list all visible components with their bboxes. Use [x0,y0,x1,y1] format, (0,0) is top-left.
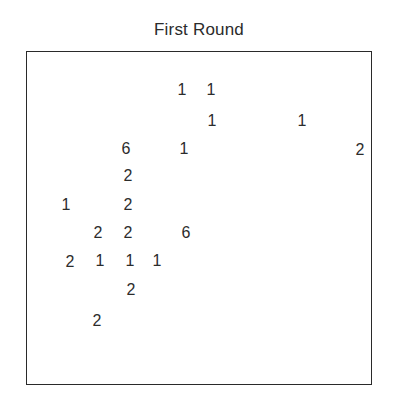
count-label: 2 [120,225,136,241]
count-label: 1 [92,253,108,269]
count-label: 1 [174,82,190,98]
count-label: 2 [352,142,368,158]
count-label: 1 [58,197,74,213]
count-label: 1 [122,253,138,269]
count-label: 6 [178,225,194,241]
plot-frame [26,51,372,385]
count-label: 2 [120,168,136,184]
count-label: 2 [90,225,106,241]
count-label: 2 [120,197,136,213]
plot-title: First Round [0,20,398,40]
count-label: 2 [62,254,78,270]
count-label: 2 [89,313,105,329]
count-label: 1 [294,113,310,129]
count-label: 1 [204,113,220,129]
count-label: 1 [203,82,219,98]
count-label: 1 [176,141,192,157]
count-label: 1 [149,253,165,269]
count-label: 6 [118,141,134,157]
count-label: 2 [123,282,139,298]
